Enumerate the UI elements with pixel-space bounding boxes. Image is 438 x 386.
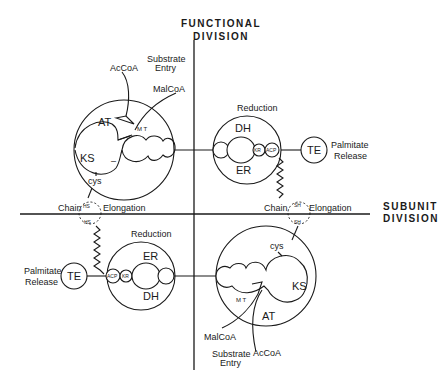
palmitate-top-1: Palmitate: [331, 140, 369, 150]
acp-label-bottom: ACP: [107, 273, 118, 279]
palmitate-top-2: Release: [334, 151, 367, 161]
fatty-acid-synthase-diagram: FUNCTIONAL DIVISION SUBUNIT DIVISION AT …: [0, 0, 438, 386]
cys-label-bottom: cys: [270, 241, 284, 251]
substrate-entry-top-2: Entry: [155, 63, 177, 73]
upper-right-reduction-domain: DH ER KR ACP TE: [213, 116, 327, 198]
kr-label-bottom: KR: [122, 273, 129, 279]
substrate-entry-bottom-2: Entry: [220, 358, 242, 368]
hs-label-upper: HS: [83, 203, 91, 209]
hs-label-lower: HS: [84, 219, 92, 225]
reduction-label-top: Reduction: [237, 103, 278, 113]
elongation-label-left: Elongation: [103, 203, 146, 213]
chain-label-left: Chain: [58, 203, 82, 213]
at-label: AT: [98, 116, 112, 128]
upper-left-condensing-domain: AT M T KS – cys: [74, 72, 216, 200]
dh-label-top: DH: [235, 122, 251, 134]
functional-division-label-1: FUNCTIONAL: [181, 18, 261, 29]
er-label-bottom: ER: [143, 250, 158, 262]
cys-label: cys: [88, 176, 102, 186]
lower-left-reduction-domain: ACP KR ER DH TE: [61, 242, 216, 310]
kr-label-top: KR: [254, 147, 261, 153]
mt-label-bottom: M T: [236, 297, 247, 303]
te-label-bottom: TE: [67, 270, 81, 282]
acp-label-top: ACP: [266, 147, 277, 153]
accoa-label-top: AcCoA: [110, 63, 138, 73]
subunit-division-label-2: DIVISION: [383, 213, 438, 224]
minus-sign: –: [111, 156, 116, 166]
at-label-bottom: AT: [262, 310, 276, 322]
mt-label: M T: [137, 126, 148, 132]
ks-label-bottom: KS: [292, 280, 307, 292]
malcoa-label-top: MalCoA: [153, 84, 185, 94]
elongation-label-right: Elongation: [309, 203, 352, 213]
phosphopantetheine-arm-left: [94, 226, 104, 274]
functional-division-label-2: DIVISION: [193, 31, 249, 42]
palmitate-bottom-2: Release: [25, 277, 58, 287]
palmitate-bottom-1: Palmitate: [24, 266, 62, 276]
accoa-label-bottom: AcCoA: [253, 348, 281, 358]
sh-label-lower: SH: [294, 219, 301, 225]
sh-label-upper: SH: [294, 202, 301, 208]
subunit-division-label-1: SUBUNIT: [383, 201, 438, 212]
dh-label-bottom: DH: [143, 290, 159, 302]
ks-label: KS: [80, 152, 95, 164]
er-label-top: ER: [236, 164, 251, 176]
reduction-label-bottom: Reduction: [131, 229, 172, 239]
te-label-top: TE: [307, 144, 321, 156]
malcoa-label-bottom: MalCoA: [204, 332, 236, 342]
chain-label-right: Chain: [264, 203, 288, 213]
